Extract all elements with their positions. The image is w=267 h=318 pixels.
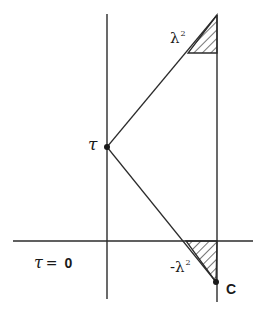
zero-value: 0 <box>65 255 73 271</box>
exponent: 2 <box>186 258 191 267</box>
point-c-label: C <box>226 282 236 296</box>
tau-equals-zero-label: τ=0 <box>34 255 72 271</box>
lower-cone-line <box>107 147 216 282</box>
lambda-symbol: λ <box>170 29 180 47</box>
point-tau <box>104 144 110 150</box>
point-c <box>213 279 219 285</box>
exponent: 2 <box>181 29 186 38</box>
upper-hatched-triangle <box>188 15 217 53</box>
equals-sign: = <box>46 255 58 271</box>
lambda-squared-top-label: λ2 <box>170 30 186 46</box>
upper-cone-line <box>107 15 217 147</box>
tau-symbol: τ <box>34 253 43 272</box>
neg-lambda-squared-label: -λ2 <box>170 259 191 275</box>
tau-point-label: τ <box>88 136 97 153</box>
lambda-symbol: λ <box>175 258 185 276</box>
